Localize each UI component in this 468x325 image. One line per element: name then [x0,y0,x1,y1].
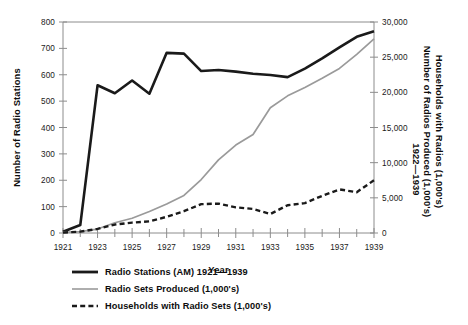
x-axis-tick-label: 1923 [88,243,107,252]
left-axis-tick-label: 200 [41,176,55,185]
left-axis-tick-label: 300 [41,150,55,159]
radio-growth-chart-figure: 0100200300400500600700800 05,00010,00015… [0,0,468,325]
x-axis-tick-label: 1933 [261,243,280,252]
x-axis-tick-label: 1935 [296,243,315,252]
legend-label-1: Radio Stations (AM) 1921—1939 [105,267,248,277]
data-series [63,31,374,232]
right-axis-tick-label: 30,000 [382,18,408,27]
right-axis-tick-label: 20,000 [382,88,408,97]
right-axis-tick-label: 5,000 [382,194,403,203]
left-axis: 0100200300400500600700800 [41,18,67,238]
left-axis-tick-label: 100 [41,203,55,212]
chart-canvas: 0100200300400500600700800 05,00010,00015… [0,0,468,325]
right-axis-title-years: 1922—1939 [411,143,422,195]
left-axis-tick-label: 800 [41,18,55,27]
right-axis-tick-label: 10,000 [382,159,408,168]
legend-label-2: Radio Sets Produced (1,000's) [105,284,239,294]
x-axis-tick-label: 1931 [226,243,245,252]
x-axis-tick-label: 1939 [365,243,384,252]
x-axis-tick-label: 1921 [54,243,73,252]
right-axis: 05,00010,00015,00020,00025,00030,000 [370,18,408,238]
axis-titles: Number of Radio StationsYearNumber of Ra… [11,46,445,275]
left-axis-title: Number of Radio Stations [11,68,22,187]
series-line-1 [63,31,374,231]
x-axis-tick-label: 1927 [157,243,176,252]
x-axis: 1921192319251927192919311933193519371939 [54,228,384,252]
x-axis-tick-label: 1929 [192,243,211,252]
x-axis-tick-label: 1937 [330,243,349,252]
right-axis-title-line2: Households with Radios (1,000's) [434,55,445,208]
right-axis-tick-label: 25,000 [382,53,408,62]
left-axis-tick-label: 700 [41,44,55,53]
x-axis-tick-label: 1925 [123,243,142,252]
right-axis-tick-label: 0 [382,229,387,238]
left-axis-tick-label: 500 [41,97,55,106]
right-axis-title-line1: Number of Radios Produced (1,000's) [422,46,433,218]
left-axis-tick-label: 0 [50,229,55,238]
left-axis-tick-label: 400 [41,124,55,133]
chart-legend: Radio Stations (AM) 1921—1939Radio Sets … [72,267,271,311]
right-axis-tick-label: 15,000 [382,124,408,133]
legend-label-3: Households with Radio Sets (1,000's) [105,301,271,311]
left-axis-tick-label: 600 [41,71,55,80]
